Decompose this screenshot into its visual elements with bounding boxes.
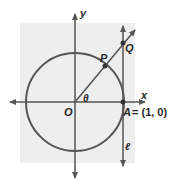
point-q-label: Q xyxy=(125,42,134,54)
point-a-coords: = (1, 0) xyxy=(132,106,167,118)
point-a xyxy=(121,100,126,105)
point-p-label: P xyxy=(100,52,108,64)
point-p xyxy=(103,64,108,69)
tangent-line-label: ℓ xyxy=(125,141,131,152)
x-axis-label: x xyxy=(140,89,148,101)
unit-circle-diagram: y x O θ P Q A = (1, 0) ℓ xyxy=(0,0,177,185)
point-a-label: A xyxy=(122,106,131,118)
background-panel xyxy=(20,23,135,163)
origin-label: O xyxy=(64,106,73,118)
y-axis-label: y xyxy=(79,7,87,19)
angle-theta-label: θ xyxy=(83,93,89,104)
